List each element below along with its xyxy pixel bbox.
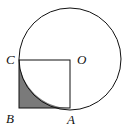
label-a: A [66,112,75,127]
label-c: C [6,52,15,67]
shaded-region [19,60,70,108]
geometry-diagram: C O B A [0,0,128,128]
label-o: O [77,52,87,67]
label-b: B [6,111,14,126]
